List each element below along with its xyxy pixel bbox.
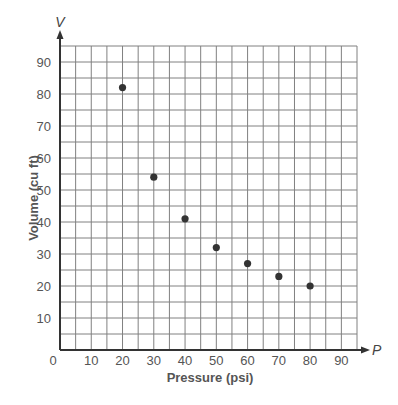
- y-tick-label: 30: [37, 247, 51, 262]
- y-axis-arrow-icon: [57, 30, 64, 39]
- x-tick-label: 40: [178, 353, 192, 368]
- x-axis-variable-label: P: [372, 342, 382, 358]
- y-tick-label: 70: [37, 119, 51, 134]
- x-tick-labels: 0102030405060708090: [49, 353, 348, 368]
- data-point: [213, 244, 220, 251]
- x-axis-arrow-icon: [361, 347, 370, 354]
- x-tick-label: 60: [240, 353, 254, 368]
- x-tick-label: 50: [209, 353, 223, 368]
- y-tick-label: 80: [37, 87, 51, 102]
- grid-lines: [60, 46, 357, 350]
- x-tick-label: 80: [303, 353, 317, 368]
- x-tick-label: 0: [49, 353, 56, 368]
- y-tick-label: 10: [37, 311, 51, 326]
- x-axis-title: Pressure (psi): [167, 370, 254, 385]
- data-point: [150, 174, 157, 181]
- data-point: [181, 215, 188, 222]
- axes: [57, 30, 371, 354]
- x-tick-label: 20: [115, 353, 129, 368]
- data-point: [307, 282, 314, 289]
- x-tick-label: 30: [147, 353, 161, 368]
- y-axis-title: Volume (cu ft): [26, 155, 41, 241]
- data-point: [244, 260, 251, 267]
- y-tick-label: 20: [37, 279, 51, 294]
- scatter-chart: 0102030405060708090 102030405060708090 V…: [0, 0, 398, 405]
- data-point: [275, 273, 282, 280]
- data-point: [119, 84, 126, 91]
- x-tick-label: 10: [84, 353, 98, 368]
- x-tick-label: 70: [272, 353, 286, 368]
- x-tick-label: 90: [334, 353, 348, 368]
- y-tick-label: 90: [37, 55, 51, 70]
- y-axis-variable-label: V: [55, 14, 66, 30]
